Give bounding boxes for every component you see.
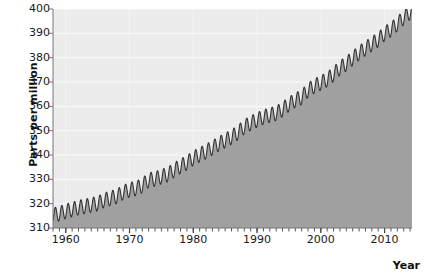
y-tick-label: 380	[20, 52, 50, 63]
y-tick-label: 390	[20, 27, 50, 38]
y-tick-label: 370	[20, 76, 50, 87]
y-tick-label: 350	[20, 125, 50, 136]
y-tick-label: 330	[20, 173, 50, 184]
y-tick-label: 340	[20, 149, 50, 160]
x-axis-tick-labels: 196019701980199020002010	[0, 234, 426, 248]
y-tick-label: 320	[20, 198, 50, 209]
x-axis-minor-ticks	[53, 228, 410, 232]
x-tick-label: 2000	[299, 234, 343, 245]
y-tick-label: 400	[20, 3, 50, 14]
y-tick-label: 360	[20, 100, 50, 111]
x-tick-label: 2010	[363, 234, 407, 245]
x-tick-label: 1980	[171, 234, 215, 245]
y-tick-label: 310	[20, 222, 50, 233]
x-axis-title: Year	[393, 259, 420, 272]
x-tick-label: 1960	[44, 234, 88, 245]
y-axis-tick-labels: 310320330340350360370380390400	[14, 0, 50, 273]
x-tick-label: 1990	[235, 234, 279, 245]
x-tick-label: 1970	[108, 234, 152, 245]
chart-figure: Parts per million Year 31032033034035036…	[0, 0, 426, 273]
